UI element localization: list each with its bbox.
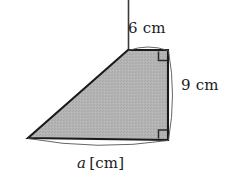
dimension-label-bottom: a[cm]	[77, 156, 124, 171]
dimension-variable-a: a	[77, 154, 86, 172]
dimension-unit-cm: [cm]	[89, 154, 124, 172]
dimension-label-right: 9 cm	[181, 78, 219, 93]
geometry-figure: 6 cm 9 cm a[cm]	[0, 0, 238, 184]
dimension-label-top: 6 cm	[128, 21, 166, 36]
